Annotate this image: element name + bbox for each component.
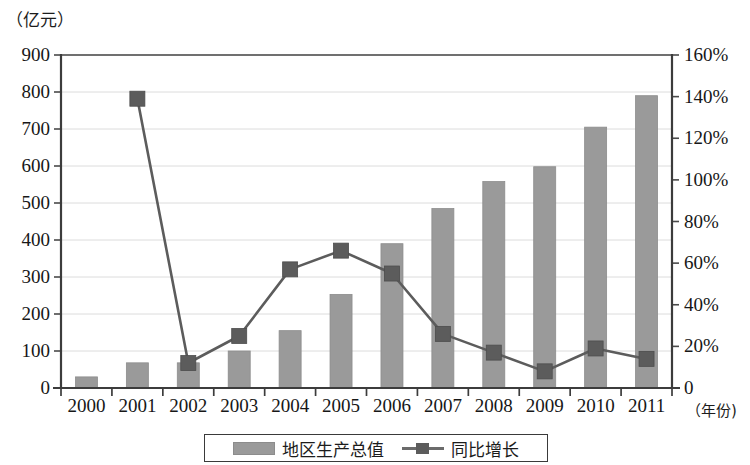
line-marker-growth [334, 243, 349, 258]
legend-label-gdp: 地区生产总值 [282, 436, 384, 461]
y-axis-right-tick-label: 0 [684, 378, 750, 397]
line-marker-growth [537, 364, 552, 379]
legend-entry-growth: 同比增长 [393, 436, 528, 461]
bar-gdp [75, 377, 97, 388]
legend-line-marker-swatch-icon [402, 442, 444, 454]
y-axis-left-tick-label: 400 [0, 230, 50, 249]
y-axis-right-tick-label: 60% [684, 253, 750, 272]
y-axis-right-tick-label: 40% [684, 295, 750, 314]
chart-container: （亿元） （年份) 0100200300400500600700800900 0… [0, 0, 750, 465]
line-marker-growth [232, 328, 247, 343]
line-marker-growth [639, 351, 654, 366]
bar-gdp [534, 167, 556, 388]
line-marker-growth [130, 91, 145, 106]
y-axis-right-tick-label: 100% [684, 170, 750, 189]
bar-gdp [126, 363, 148, 388]
y-axis-right-tick-label: 140% [684, 87, 750, 106]
bar-gdp [381, 244, 403, 388]
chart-legend: 地区生产总值 同比增长 [204, 434, 548, 462]
y-axis-left-tick-label: 300 [0, 267, 50, 286]
y-axis-left-tick-label: 600 [0, 156, 50, 175]
line-marker-growth [435, 326, 450, 341]
line-marker-growth [384, 266, 399, 281]
line-marker-growth [588, 341, 603, 356]
y-axis-right-tick-label: 20% [684, 336, 750, 355]
y-axis-right-tick-label: 160% [684, 45, 750, 64]
line-marker-growth [486, 345, 501, 360]
y-axis-right-tick-label: 80% [684, 212, 750, 231]
y-axis-left-tick-label: 800 [0, 82, 50, 101]
bar-gdp [330, 294, 352, 388]
legend-entry-gdp: 地区生产总值 [224, 436, 393, 461]
line-marker-growth [181, 356, 196, 371]
bar-gdp [636, 96, 658, 388]
y-axis-left-tick-label: 200 [0, 304, 50, 323]
y-axis-left-tick-label: 500 [0, 193, 50, 212]
y-axis-left-tick-label: 700 [0, 119, 50, 138]
line-marker-growth [283, 262, 298, 277]
bar-gdp [279, 331, 301, 388]
x-axis-tick-label: 2011 [617, 396, 677, 416]
y-axis-left-tick-label: 100 [0, 341, 50, 360]
legend-label-growth: 同比增长 [451, 436, 519, 461]
bar-gdp [432, 209, 454, 388]
bar-gdp [228, 351, 250, 388]
legend-bar-swatch-icon [233, 442, 275, 455]
y-axis-left-tick-label: 0 [0, 378, 50, 397]
y-axis-left-tick-label: 900 [0, 45, 50, 64]
y-axis-right-tick-label: 120% [684, 128, 750, 147]
